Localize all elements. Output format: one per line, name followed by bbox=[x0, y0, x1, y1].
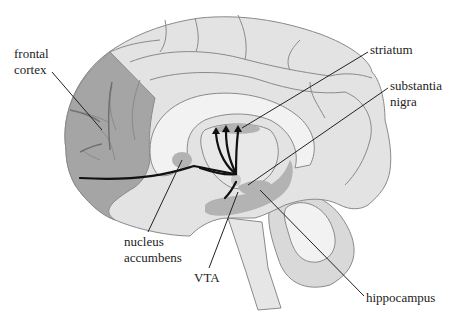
label-substantia-nigra: substantia nigra bbox=[390, 78, 442, 110]
label-striatum: striatum bbox=[370, 42, 413, 58]
brain-diagram: frontal cortex striatum substantia nigra… bbox=[0, 0, 453, 319]
label-vta: VTA bbox=[194, 270, 220, 286]
label-nucleus-accumbens: nucleus accumbens bbox=[124, 234, 182, 266]
label-frontal-cortex: frontal cortex bbox=[14, 46, 49, 78]
label-hippocampus: hippocampus bbox=[366, 290, 435, 306]
